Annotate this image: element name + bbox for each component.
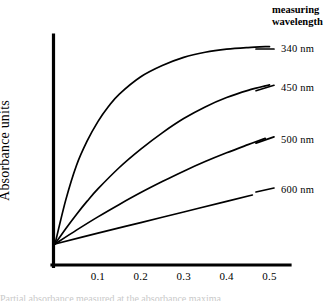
bottom-caption-strip: Partial absorbance measured at the absor…	[0, 294, 333, 301]
y-axis-title-text: Absorbance units	[0, 100, 13, 201]
y-axis-title: Absorbance units	[0, 0, 22, 301]
x-axis-tick-label: 0.3	[169, 270, 199, 282]
x-axis-tick-label: 0.1	[83, 270, 113, 282]
series-curve	[55, 195, 252, 244]
x-axis-tick-label: 0.4	[212, 270, 242, 282]
series-curves-group	[55, 47, 270, 244]
legend-entry-label: 500 nm	[281, 134, 314, 145]
x-axis-tick-label: 0.2	[126, 270, 156, 282]
x-axis-tick-label: 0.5	[255, 270, 285, 282]
legend-entry-label: 450 nm	[281, 82, 314, 93]
legend-entry-label: 600 nm	[281, 184, 314, 195]
series-curve	[55, 85, 270, 244]
legend-line-mark	[256, 188, 274, 192]
series-curve	[55, 47, 270, 244]
chart-figure: Absorbance units 0.10.20.30.40.5 measuri…	[0, 0, 333, 301]
legend-marks-group	[256, 49, 274, 192]
series-curve	[55, 138, 265, 244]
legend-title: measuring wavelength	[272, 4, 333, 27]
legend-title-line-2: wavelength	[272, 16, 333, 28]
legend-entry-label: 340 nm	[281, 43, 314, 54]
legend-title-line-1: measuring	[272, 4, 333, 16]
